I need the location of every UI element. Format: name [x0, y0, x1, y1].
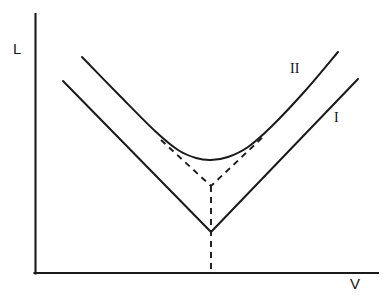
curve-label-i: I — [334, 111, 339, 125]
curve-label-ii: II — [290, 62, 299, 76]
figure-container: L V II I — [0, 0, 388, 297]
asymptote-dashed-v — [161, 136, 264, 186]
x-axis-label: V — [350, 276, 360, 291]
curve-ii-path — [82, 52, 338, 160]
y-axis-label: L — [13, 41, 21, 56]
plot-canvas — [0, 0, 388, 297]
